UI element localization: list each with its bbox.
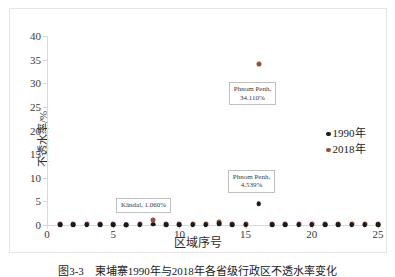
callout-line-1: Phnom Penh, [234,85,271,94]
y-tick-label: 0 [36,220,42,231]
x-tick-label: 10 [174,229,185,240]
data-point [177,223,182,228]
data-point [58,223,63,228]
legend-marker-icon [326,148,331,153]
data-point [243,223,248,228]
data-point [257,201,262,206]
legend-label: 1990年 [333,126,366,142]
x-tick-label: 20 [306,229,317,240]
data-point [336,223,341,228]
data-point [151,222,156,227]
y-tick-label: 30 [30,78,41,89]
data-point [190,223,195,228]
data-point [283,223,288,228]
data-point [323,222,328,227]
data-point [124,223,129,228]
y-tick-mark [43,107,47,108]
data-point [137,223,142,228]
y-tick-label: 35 [30,54,41,65]
chart-legend: 1990年2018年 [326,126,366,158]
legend-item-1990: 1990年 [326,126,366,142]
data-point [98,223,103,228]
y-tick-label: 25 [30,101,41,112]
data-point [111,223,116,228]
data-point [71,223,76,228]
callout-line-1: Kândal, 1.060% [121,201,166,210]
y-tick-label: 15 [30,149,41,160]
figure-caption: 图3-3 柬埔寨1990年与2018年各省级行政区不透水率变化 [0,262,395,277]
y-tick-label: 20 [30,125,41,136]
ann-kandal-2018: Kândal, 1.060% [116,198,171,213]
data-point [84,223,89,228]
y-tick-mark [43,201,47,202]
legend-item-2018: 2018年 [326,142,366,158]
data-point [310,223,315,228]
legend-marker-icon [326,132,331,137]
ann-phnom-penh-1990: Phnom Penh,4.539% [228,170,275,194]
y-tick-mark [43,83,47,84]
data-point [349,223,354,228]
data-point [217,222,222,227]
figure-container: 不透水率/% 区域序号 0510152025303540 0510152025 … [0,0,395,277]
y-tick-label: 5 [36,196,42,207]
x-axis-title: 区域序号 [0,233,395,251]
data-point [230,223,235,228]
y-tick-mark [43,154,47,155]
data-point [376,223,381,228]
x-tick-label: 5 [110,229,116,240]
x-tick-label: 15 [240,229,251,240]
data-point [296,223,301,228]
y-tick-label: 40 [30,31,41,42]
y-tick-mark [43,131,47,132]
callout-line-2: 4.539% [233,181,270,190]
data-point [362,223,367,228]
data-point [164,223,169,228]
y-tick-mark [43,178,47,179]
callout-line-2: 34.110% [234,94,271,103]
y-tick-mark [43,60,47,61]
data-point [204,223,209,228]
x-tick-label: 25 [373,229,384,240]
y-tick-mark [43,36,47,37]
callout-line-1: Phnom Penh, [233,173,270,182]
y-axis-line [47,36,48,225]
y-tick-label: 10 [30,172,41,183]
x-tick-label: 0 [44,229,50,240]
legend-label: 2018年 [333,142,366,158]
ann-phnom-penh-2018: Phnom Penh,34.110% [229,82,276,106]
data-point [256,61,261,66]
data-point [270,223,275,228]
